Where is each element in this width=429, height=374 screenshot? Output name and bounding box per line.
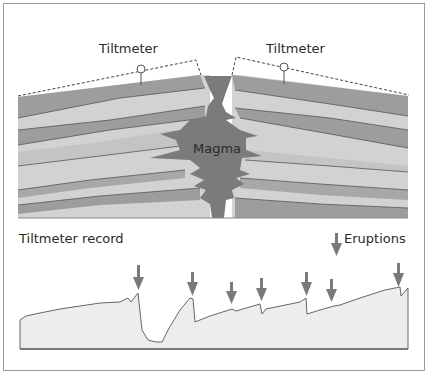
eruption-arrow-icon	[393, 263, 404, 287]
tiltmeter-left-label: Tiltmeter	[98, 41, 159, 56]
eruption-arrow-icon	[326, 279, 337, 302]
record-title: Tiltmeter record	[18, 231, 124, 246]
eruption-legend: Eruptions	[331, 231, 406, 256]
eruption-arrow-icon	[301, 272, 312, 296]
eruption-arrow-icon	[226, 282, 237, 304]
eruption-arrow-icon	[256, 278, 267, 301]
eruption-arrow-icon	[187, 272, 198, 296]
legend-label: Eruptions	[344, 231, 406, 246]
tiltmeter-record-chart	[20, 287, 408, 349]
eruption-arrow-icon	[133, 265, 144, 290]
volcano-diagram: Tiltmeter Tiltmeter Magma Tiltmeter reco…	[0, 0, 429, 374]
tiltmeter-right-label: Tiltmeter	[265, 41, 326, 56]
magma-label: Magma	[193, 141, 241, 156]
